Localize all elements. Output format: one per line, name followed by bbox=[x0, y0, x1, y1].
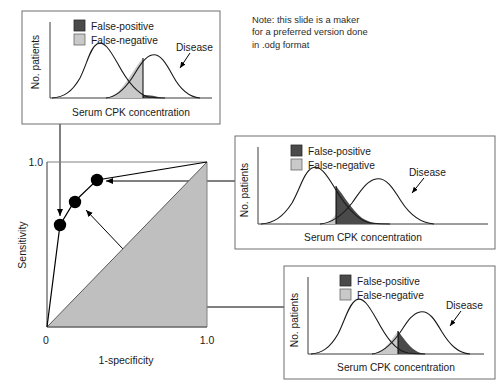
figure-svg: 1.0 0 1.0 1-specificity Sensitivity Fals… bbox=[0, 0, 498, 386]
panel-middle-right-xlabel: Serum CPK concentration bbox=[304, 232, 422, 243]
panel-top-left-disease-label: Disease bbox=[176, 42, 213, 53]
roc-origin-tick: 0 bbox=[43, 334, 49, 346]
panel-top-left-ylabel: No. patients bbox=[30, 35, 41, 89]
roc-ytick-top: 1.0 bbox=[28, 156, 43, 168]
panel-bottom-right-legend-swatch-fn bbox=[340, 289, 351, 300]
panel-bottom-right-xlabel: Serum CPK concentration bbox=[337, 362, 455, 373]
panel-top-left-xlabel: Serum CPK concentration bbox=[72, 107, 190, 118]
panel-top-left-legend-swatch-fn bbox=[74, 34, 85, 45]
panel-middle-right-legend-fp-label: False-positive bbox=[308, 146, 371, 157]
panel-middle-right-legend-swatch-fn bbox=[291, 159, 302, 170]
panel-bottom-right-ylabel: No. patients bbox=[289, 293, 300, 347]
panel-bottom-right-legend-swatch-fp bbox=[340, 275, 351, 286]
panel-bottom-right-legend-fn-label: False-negative bbox=[357, 290, 424, 301]
panel-bottom-right-legend-fp-label: False-positive bbox=[357, 276, 420, 287]
roc-point-1[interactable] bbox=[54, 219, 66, 231]
roc-xtick-right: 1.0 bbox=[200, 334, 215, 346]
panel-middle-right-legend-swatch-fp bbox=[291, 145, 302, 156]
slide-canvas: Note: this slide is a maker for a prefer… bbox=[0, 0, 498, 386]
roc-point-3[interactable] bbox=[91, 174, 103, 186]
panel-top-left-legend-fn-label: False-negative bbox=[91, 35, 158, 46]
roc-plot bbox=[47, 162, 207, 327]
panel-bottom-right-disease-label: Disease bbox=[446, 300, 483, 311]
roc-point-2[interactable] bbox=[69, 196, 81, 208]
panel-top-left-legend-fp-label: False-positive bbox=[91, 21, 154, 32]
panel-middle-right-legend-fn-label: False-negative bbox=[308, 160, 375, 171]
panel-middle-right-disease-label: Disease bbox=[409, 167, 446, 178]
roc-xlabel: 1-specificity bbox=[99, 354, 155, 366]
panel-middle-right-ylabel: No. patients bbox=[239, 163, 250, 217]
panel-top-left-legend-swatch-fp bbox=[74, 20, 85, 31]
roc-ylabel: Sensitivity bbox=[16, 221, 28, 269]
